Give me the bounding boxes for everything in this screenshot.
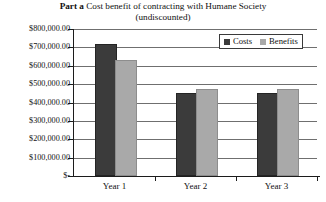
plot-area (74, 29, 317, 176)
chart-title: Part a Cost benefit of contracting with … (0, 1, 326, 22)
y-axis-tick-label: $600,000.00 (6, 62, 70, 70)
legend-item-costs: Costs (224, 37, 252, 46)
gridline (74, 29, 317, 30)
x-tick-mark (317, 176, 318, 181)
bar-benefits-year-2 (196, 89, 218, 176)
chart-title-line1: Cost benefit of contracting with Humane … (84, 1, 266, 11)
y-axis-tick-label: $800,000.00 (6, 25, 70, 33)
legend-swatch-costs-icon (224, 39, 230, 45)
x-tick-mark (236, 176, 237, 181)
chart-title-line2: (undiscounted) (135, 12, 190, 22)
x-axis-tick-label: Year 2 (161, 182, 231, 191)
y-axis-tick-label: $400,000.00 (6, 99, 70, 107)
y-axis-tick-label: $500,000.00 (6, 80, 70, 88)
legend-item-benefits: Benefits (260, 37, 298, 46)
x-tick-mark (155, 176, 156, 181)
y-axis-tick-label: $- (6, 172, 70, 180)
bar-benefits-year-1 (115, 60, 137, 176)
x-axis-tick-label: Year 3 (242, 182, 312, 191)
x-axis-tick-label: Year 1 (80, 182, 150, 191)
y-axis-tick-label: $700,000.00 (6, 43, 70, 51)
y-axis-tick-label: $300,000.00 (6, 117, 70, 125)
bar-costs-year-3 (257, 93, 279, 176)
chart-title-lead: Part a (60, 1, 84, 11)
bar-benefits-year-3 (277, 89, 299, 176)
chart-figure: Part a Cost benefit of contracting with … (0, 0, 326, 202)
legend-swatch-benefits-icon (260, 39, 266, 45)
y-axis-tick-label: $200,000.00 (6, 135, 70, 143)
y-axis-tick-label: $100,000.00 (6, 154, 70, 162)
x-axis-line (73, 176, 320, 177)
bar-costs-year-1 (95, 44, 117, 176)
legend-label-benefits: Benefits (269, 37, 298, 46)
legend-label-costs: Costs (233, 37, 252, 46)
bar-costs-year-2 (176, 93, 198, 176)
chart-legend: Costs Benefits (219, 34, 303, 49)
